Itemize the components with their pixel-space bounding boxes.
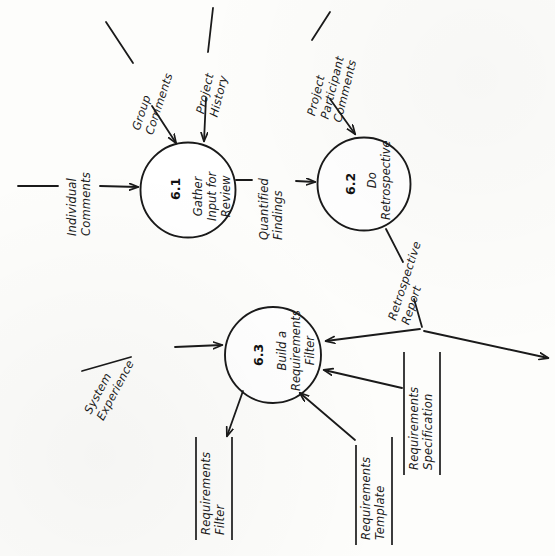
flow-quantified-findings — [296, 181, 315, 182]
flow-requirements-template-to-6-3 — [300, 393, 355, 440]
process-circle-6-2 — [318, 138, 411, 231]
flow-retrospective-report-to-6-3 — [326, 329, 420, 341]
flow-system-experience — [175, 345, 222, 347]
flow-project-history-source — [208, 8, 213, 52]
data-flow-diagram: 6.1 Gather Input for Review 6.2 Do Retro… — [0, 0, 555, 556]
process-name-6-2: Do Retrospective — [366, 140, 394, 220]
flow-label-quantified-findings: Quantified Findings — [258, 178, 285, 240]
process-id-6-2: 6.2 — [343, 173, 358, 195]
flow-retrospective-report-stem — [386, 229, 403, 262]
store-label-requirements-template: Requirements Template — [360, 457, 387, 540]
flow-6-3-to-requirements-filter — [227, 391, 243, 436]
process-id-6-1: 6.1 — [168, 178, 183, 200]
process-id-6-3: 6.3 — [251, 344, 266, 366]
flow-participant-comments-source — [312, 12, 330, 40]
diagram-canvas — [0, 0, 555, 556]
store-label-requirements-specification: Requirements Specification — [408, 387, 435, 470]
flow-requirements-spec-to-6-3 — [324, 370, 402, 388]
flow-individual-comments — [100, 186, 138, 187]
flow-group-comments-source — [106, 22, 133, 63]
store-label-requirements-filter: Requirements Filter — [200, 452, 227, 535]
process-name-6-1: Gather Input for Review — [192, 172, 233, 221]
flow-label-individual-comments: Individual Comments — [66, 172, 93, 236]
process-name-6-3: Build a Requirements Filter — [276, 310, 317, 391]
flow-retrospective-report-external — [424, 331, 548, 358]
